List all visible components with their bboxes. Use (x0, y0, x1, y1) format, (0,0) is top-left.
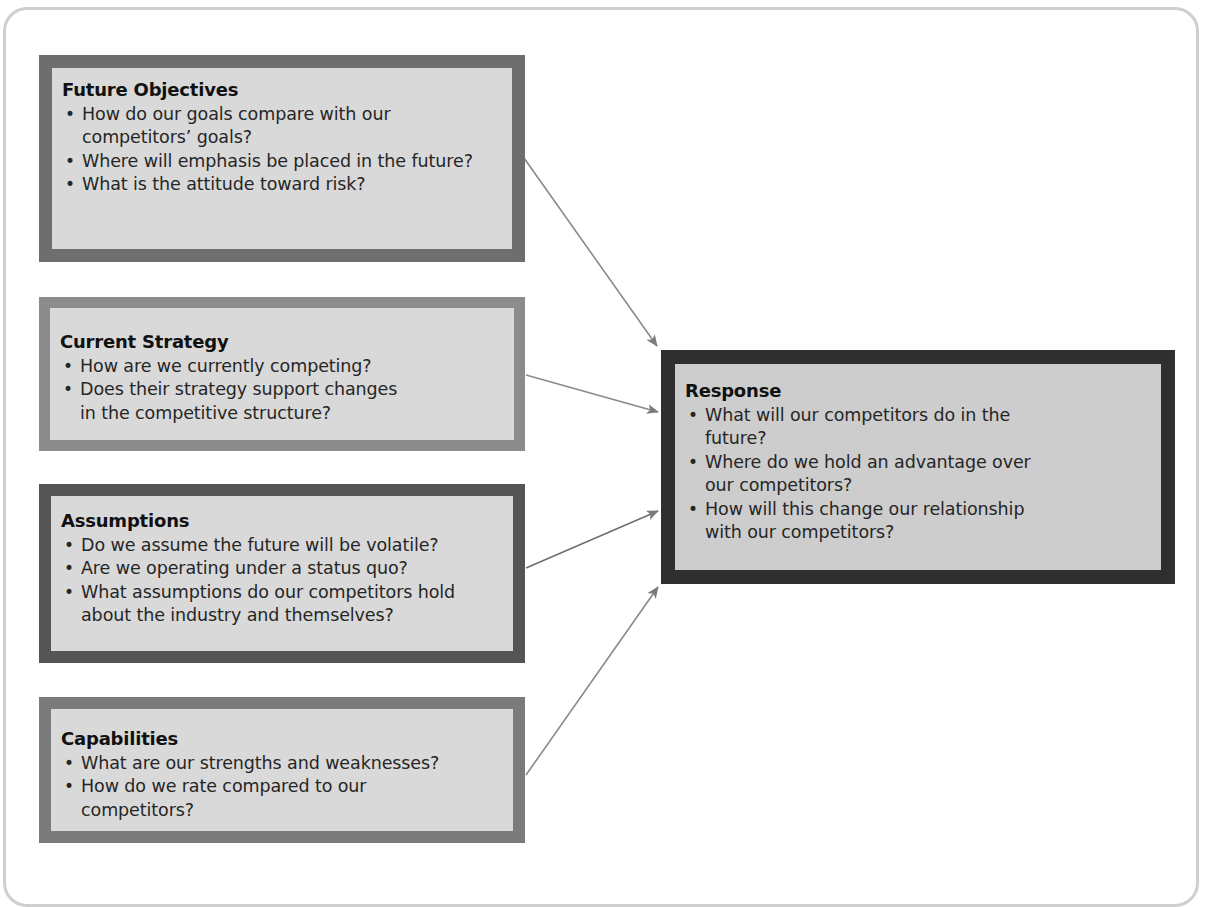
list-item: Do we assume the future will be volatile… (61, 534, 503, 557)
assumptions-title: Assumptions (61, 509, 503, 533)
capabilities-title: Capabilities (61, 727, 503, 751)
list-item: Where do we hold an advantage over our c… (685, 451, 1051, 498)
response-title: Response (685, 379, 1151, 403)
capabilities-list: What are our strengths and weaknesses? H… (61, 752, 503, 822)
current-strategy-title: Current Strategy (60, 330, 504, 354)
list-item: How do our goals compare with our compet… (62, 103, 502, 150)
capabilities-box: Capabilities What are our strengths and … (39, 697, 525, 843)
response-box: Response What will our competitors do in… (661, 350, 1175, 584)
list-item: How will this change our relationship wi… (685, 498, 1051, 545)
response-list: What will our competitors do in the futu… (685, 404, 1151, 544)
list-item: How are we currently competing? (60, 355, 504, 378)
future-objectives-box: Future Objectives How do our goals compa… (39, 55, 525, 262)
list-item: How do we rate compared to our competito… (61, 775, 503, 822)
assumptions-list: Do we assume the future will be volatile… (61, 534, 503, 628)
current-strategy-box: Current Strategy How are we currently co… (39, 297, 525, 451)
list-item: What is the attitude toward risk? (62, 173, 502, 196)
list-item: Where will emphasis be placed in the fut… (62, 150, 502, 173)
list-item: What will our competitors do in the futu… (685, 404, 1051, 451)
assumptions-box: Assumptions Do we assume the future will… (39, 484, 525, 663)
list-item: What assumptions do our competitors hold… (61, 581, 503, 628)
list-item: What are our strengths and weaknesses? (61, 752, 503, 775)
future-objectives-title: Future Objectives (62, 78, 502, 102)
future-objectives-list: How do our goals compare with our compet… (62, 103, 502, 197)
list-item: Are we operating under a status quo? (61, 557, 503, 580)
list-item: Does their strategy support changes in t… (60, 378, 504, 425)
current-strategy-list: How are we currently competing? Does the… (60, 355, 504, 425)
